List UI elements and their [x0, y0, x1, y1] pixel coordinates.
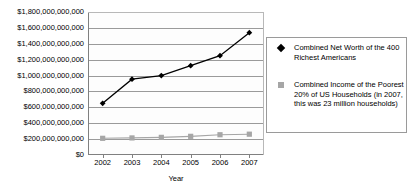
square-marker-icon	[270, 81, 292, 90]
data-point-marker	[188, 63, 194, 69]
data-point-marker	[217, 132, 222, 137]
chart-legend: Combined Net Worth of the 400 Richest Am…	[266, 37, 407, 133]
y-axis-tick-label: $200,000,000,000	[0, 135, 84, 143]
x-axis-title: Year	[88, 174, 264, 183]
y-axis-tick-label: $400,000,000,000	[0, 119, 84, 127]
x-axis-tick-label: 2005	[175, 158, 207, 167]
x-axis-tick-label: 2002	[87, 158, 119, 167]
legend-label: Combined Net Worth of the 400 Richest Am…	[294, 43, 405, 62]
y-axis-tick-label: $1,400,000,000,000	[0, 40, 84, 48]
x-axis-tick	[161, 155, 162, 158]
x-axis-tick-label: 2007	[233, 158, 265, 167]
y-axis-tick-label: $1,200,000,000,000	[0, 56, 84, 64]
y-axis-tick-label: $600,000,000,000	[0, 103, 84, 111]
y-axis-tick-label: $1,600,000,000,000	[0, 24, 84, 32]
x-axis-tick-label: 2004	[145, 158, 177, 167]
x-axis-tick	[191, 155, 192, 158]
x-axis-tick	[103, 155, 104, 158]
series-line	[103, 33, 250, 104]
legend-entry-poorest-income[interactable]: Combined Income of the Poorest 20% of US…	[270, 80, 405, 109]
data-point-marker	[129, 135, 134, 140]
diamond-marker-icon	[270, 44, 292, 53]
data-point-marker	[158, 73, 164, 79]
chart-title: 23 Million Poorest Households	[88, 0, 264, 1]
series-line	[103, 134, 250, 138]
data-point-marker	[100, 136, 105, 141]
x-axis-tick-labels: 200220032004200520062007	[88, 158, 264, 170]
y-axis-tick-label: $800,000,000,000	[0, 87, 84, 95]
data-point-marker	[188, 134, 193, 139]
x-axis-tick-label: 2006	[204, 158, 236, 167]
y-axis-tick-label: $1,000,000,000,000	[0, 72, 84, 80]
series-layer	[88, 12, 264, 155]
x-axis-tick	[220, 155, 221, 158]
x-axis-tick	[132, 155, 133, 158]
y-axis-tick-label: $0	[0, 151, 84, 159]
y-axis-tick-label: $1,800,000,000,000	[0, 8, 84, 16]
data-point-marker	[247, 132, 252, 137]
data-point-marker	[159, 135, 164, 140]
x-axis-tick-label: 2003	[116, 158, 148, 167]
x-axis-tick	[249, 155, 250, 158]
y-axis-tick-labels: $1,800,000,000,000$1,600,000,000,000$1,4…	[0, 0, 85, 191]
legend-label: Combined Income of the Poorest 20% of US…	[294, 80, 405, 109]
legend-entry-net-worth[interactable]: Combined Net Worth of the 400 Richest Am…	[270, 43, 405, 62]
line-chart: 23 Million Poorest Households $1,800,000…	[0, 0, 411, 191]
